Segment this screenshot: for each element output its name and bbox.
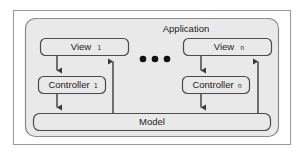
view-first-subscript: 1 bbox=[98, 44, 102, 51]
controller-first-label: Controller bbox=[48, 79, 89, 90]
controller-first-node: Controller 1 bbox=[39, 77, 106, 94]
ellipsis-dot bbox=[164, 56, 171, 63]
controller-last-subscript: n bbox=[238, 82, 242, 89]
ellipsis-indicator bbox=[140, 56, 171, 63]
model-label: Model bbox=[139, 116, 165, 127]
controller-last-label: Controller bbox=[192, 79, 233, 90]
mvc-architecture-figure: Application View 1 View n Controller 1 bbox=[0, 0, 305, 153]
controller-last-node: Controller n bbox=[183, 77, 250, 94]
view-last-subscript: n bbox=[241, 44, 245, 51]
view-last-label: View bbox=[214, 41, 235, 52]
ellipsis-dot bbox=[140, 56, 147, 63]
ellipsis-dot bbox=[152, 56, 159, 63]
mvc-diagram: Application View 1 View n Controller 1 bbox=[0, 0, 305, 153]
view-last-node: View n bbox=[184, 39, 272, 56]
application-label: Application bbox=[163, 23, 209, 34]
view-first-label: View bbox=[71, 41, 92, 52]
view-first-node: View 1 bbox=[41, 39, 129, 56]
controller-first-subscript: 1 bbox=[94, 82, 98, 89]
model-node: Model bbox=[34, 114, 271, 131]
